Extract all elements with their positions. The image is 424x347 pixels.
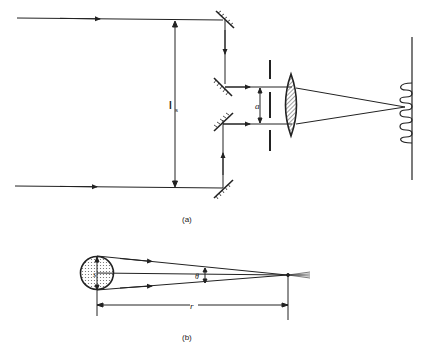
top-incoming-beam (17, 18, 223, 20)
converging-lens (286, 74, 297, 136)
aperture-label: a (255, 101, 260, 111)
bottom-incoming-beam (15, 186, 223, 188)
fringe-pattern (400, 83, 412, 143)
angle-label: θ (195, 272, 199, 281)
distance-label: r (190, 301, 194, 311)
stellar-interferometer-diagram: l s a (a) s θ r (b) (0, 0, 424, 347)
caption-a: (a) (182, 215, 192, 224)
figure-b (81, 256, 311, 320)
source-size-label: s (93, 270, 96, 279)
separation-label: l (169, 100, 172, 111)
separation-subscript: s (175, 107, 178, 113)
caption-b: (b) (182, 333, 192, 342)
figure-a (15, 11, 412, 199)
